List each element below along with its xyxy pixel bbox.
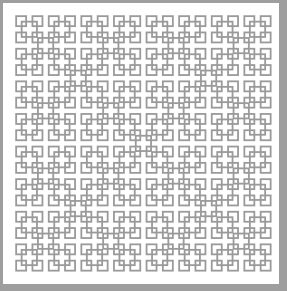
box-fractal-pattern (3, 3, 279, 284)
fractal-canvas: Box fractal curve pattern (0, 0, 287, 291)
